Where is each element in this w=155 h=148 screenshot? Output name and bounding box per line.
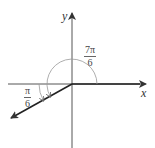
y-axis-label: y [62, 10, 67, 22]
ref-angle-denominator: 6 [24, 98, 31, 109]
angle-label-pi-6: π 6 [24, 86, 31, 109]
angle-numerator: 7π [84, 45, 96, 57]
diagram-canvas [0, 0, 155, 148]
x-axis-label: x [141, 87, 146, 99]
terminal-ray [11, 84, 72, 118]
angle-label-7pi-6: 7π 6 [84, 45, 96, 68]
ref-angle-numerator: π [24, 86, 31, 98]
angle-denominator: 6 [84, 57, 96, 68]
reference-arc-pi-6 [39, 84, 43, 101]
angle-diagram: y x 7π 6 π 6 [0, 0, 155, 148]
